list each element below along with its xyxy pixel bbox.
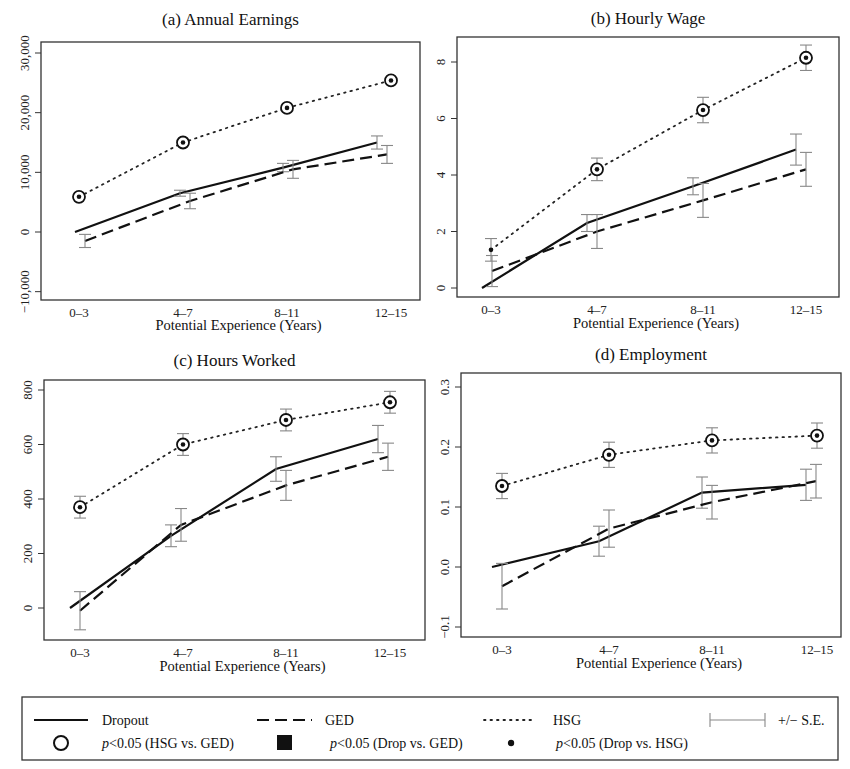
sig-drop-hsg-dot-icon [595, 167, 600, 172]
dropout-line [492, 485, 806, 567]
chart-panel-4: (d) Employment−0.10.00.10.20.30–34–78–11… [437, 345, 841, 672]
y-tick-label: 0 [20, 605, 35, 612]
sig-drop-hsg-dot-icon [181, 140, 186, 145]
sig-drop-hsg-dot-icon [285, 106, 290, 111]
y-tick-label: 6 [433, 115, 448, 122]
y-tick-label: 8 [433, 59, 448, 66]
error-bar [581, 215, 593, 232]
legend-sig-drop-ged-label: p<0.05 (Drop vs. GED) [329, 736, 463, 752]
sig-drop-hsg-dot-icon [804, 55, 809, 60]
sig-drop-hsg-dot-icon [181, 442, 186, 447]
error-bar [496, 563, 508, 609]
se-legend-icon [710, 713, 765, 727]
panel-title: (a) Annual Earnings [162, 10, 299, 29]
x-tick-label: 12–15 [790, 302, 823, 317]
y-tick-label: 20,000 [17, 95, 32, 131]
y-tick-label: 0.1 [437, 499, 452, 515]
panel-title: (d) Employment [595, 345, 707, 364]
error-bar [800, 152, 812, 186]
error-bar [697, 183, 709, 217]
x-axis-label: Potential Experience (Years) [576, 655, 742, 672]
dropout-line [70, 439, 378, 608]
x-axis-label: Potential Experience (Years) [159, 658, 325, 675]
x-tick-label: 0–3 [70, 645, 90, 660]
ged-line [492, 169, 806, 271]
dropout-line [75, 143, 377, 233]
legend: DropoutGEDHSG+/− S.E.p<0.05 (HSG vs. GED… [22, 697, 838, 760]
panel-title: (b) Hourly Wage [591, 9, 705, 28]
y-tick-label: 4 [433, 171, 448, 178]
legend-sig-drop-hsg-label: p<0.05 (Drop vs. HSG) [555, 736, 688, 752]
x-tick-label: 12–15 [374, 645, 407, 660]
sig-drop-hsg-dot-icon [77, 194, 82, 199]
legend-sig-hsg-ged-label: p<0.05 (HSG vs. GED) [101, 736, 234, 752]
error-bar [280, 470, 292, 500]
sig-drop-hsg-dot-icon [388, 400, 393, 405]
legend-dropout-label: Dropout [102, 713, 149, 728]
filled-square-icon [277, 735, 292, 750]
error-bar [270, 457, 282, 482]
ged-line [85, 154, 387, 241]
legend-ged-label: GED [325, 713, 354, 728]
filled-dot-icon [508, 740, 514, 746]
sig-drop-hsg-dot-icon [815, 433, 820, 438]
sig-drop-hsg-dot-icon [701, 108, 706, 113]
panel-title: (c) Hours Worked [173, 351, 296, 370]
y-tick-label: 2 [433, 228, 448, 235]
chart-panel-1: (a) Annual Earnings−10,000010,00020,0003… [17, 10, 420, 334]
x-tick-label: 0–3 [69, 305, 89, 320]
error-bar [184, 193, 196, 209]
hsg-line [502, 436, 817, 486]
chart-panel-3: (c) Hours Worked02004006008000–34–78–111… [20, 351, 425, 675]
error-bar [382, 443, 394, 470]
y-tick-label: 0.2 [437, 439, 452, 455]
error-bar [790, 134, 802, 165]
dropout-line [482, 150, 796, 288]
y-tick-label: 600 [20, 435, 35, 455]
x-tick-label: 12–15 [375, 305, 408, 320]
sig-drop-hsg-dot-icon [607, 453, 612, 458]
y-tick-label: 0 [433, 285, 448, 292]
figure: (a) Annual Earnings−10,000010,00020,0003… [0, 0, 850, 769]
ged-line [502, 481, 816, 586]
sig-drop-hsg-dot-icon [500, 484, 505, 489]
hsg-line [491, 58, 806, 250]
y-tick-label: 0.0 [437, 559, 452, 575]
y-tick-label: 0 [17, 229, 32, 236]
x-axis-label: Potential Experience (Years) [573, 315, 739, 332]
legend-hsg-label: HSG [553, 713, 581, 728]
sig-drop-hsg-dot-icon [78, 505, 83, 510]
y-tick-label: 30,000 [17, 35, 32, 71]
open-circle-icon [54, 736, 68, 750]
sig-drop-hsg-dot-icon [710, 438, 715, 443]
hsg-line [80, 402, 390, 507]
y-tick-label: −10,000 [17, 270, 32, 313]
y-tick-label: 200 [20, 544, 35, 564]
plot-frame [461, 373, 841, 637]
error-bar [687, 178, 699, 195]
x-tick-label: 12–15 [801, 642, 834, 657]
y-tick-label: −0.1 [437, 615, 452, 639]
sig-drop-hsg-dot-icon [489, 248, 494, 253]
error-bar [603, 510, 615, 547]
plot-frame [44, 380, 425, 640]
y-tick-label: 0.3 [437, 379, 452, 395]
x-tick-label: 0–3 [481, 302, 501, 317]
y-tick-label: 400 [20, 489, 35, 509]
plot-frame [41, 42, 420, 300]
error-bar [372, 425, 384, 452]
y-tick-label: 800 [20, 380, 35, 400]
x-axis-label: Potential Experience (Years) [155, 317, 321, 334]
sig-drop-hsg-dot-icon [389, 78, 394, 83]
chart-panel-2: (b) Hourly Wage024680–34–78–1112–15Poten… [433, 9, 839, 332]
plot-frame [457, 37, 839, 297]
error-bar [486, 256, 498, 287]
legend-se-label: +/− S.E. [778, 713, 825, 728]
y-tick-label: 10,000 [17, 154, 32, 190]
sig-drop-hsg-dot-icon [284, 418, 289, 423]
x-tick-label: 0–3 [492, 642, 512, 657]
error-bar [79, 234, 91, 247]
